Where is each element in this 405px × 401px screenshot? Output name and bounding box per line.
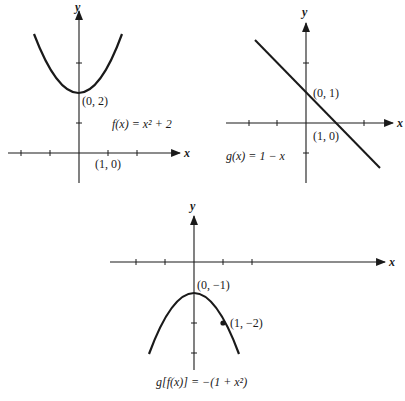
composition-diagram: y x (0, 2) (1, 0) f(x) = x² + 2 y x (0, …: [0, 0, 405, 401]
axis-label-x: x: [388, 255, 395, 269]
point-label-vertex: (0, 2): [82, 94, 108, 108]
function-label-g: g(x) = 1 − x: [226, 149, 286, 163]
axis-label-y: y: [300, 5, 308, 19]
point-label-vertex: (0, −1): [197, 278, 230, 292]
graph-f: y x (0, 2) (1, 0) f(x) = x² + 2: [8, 0, 190, 183]
axis-label-y: y: [188, 199, 196, 213]
point-label-y-intercept: (0, 1): [313, 86, 339, 100]
point-label-marker: (1, −2): [230, 316, 263, 330]
axis-label-x: x: [183, 146, 190, 160]
graph-g-of-f: y x (0, −1) (1, −2) g[f(x)] = −(1 + x²): [110, 199, 395, 389]
axis-label-y: y: [73, 0, 81, 14]
graph-g: y x (0, 1) (1, 0) g(x) = 1 − x: [226, 5, 403, 183]
point-marker: [220, 320, 225, 325]
point-label-x-intercept: (1, 0): [313, 129, 339, 143]
function-label-f: f(x) = x² + 2: [112, 117, 172, 131]
function-label-composition: g[f(x)] = −(1 + x²): [156, 375, 247, 389]
axis-label-x: x: [396, 116, 403, 130]
point-label-x-intercept: (1, 0): [95, 157, 121, 171]
